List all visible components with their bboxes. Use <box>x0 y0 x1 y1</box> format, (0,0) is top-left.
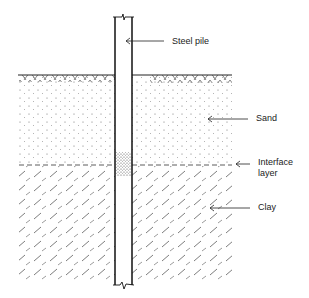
interface-arrow-icon <box>236 161 250 167</box>
bottom-break-symbol <box>113 282 134 289</box>
clay-layer <box>19 166 232 280</box>
interface-label-line1: Interface <box>258 157 293 167</box>
top-break-symbol <box>113 14 134 20</box>
interface-layer-zone <box>116 152 131 176</box>
clay-label: Clay <box>258 202 276 212</box>
interface-label-line2: layer <box>258 168 278 178</box>
steel-pile <box>113 14 134 289</box>
ground-surface-hatching <box>18 75 232 83</box>
sand-layer <box>19 76 232 165</box>
steel-pile-label: Steel pile <box>172 36 209 46</box>
pile-cross-section-diagram <box>0 0 309 298</box>
sand-label: Sand <box>256 113 277 123</box>
